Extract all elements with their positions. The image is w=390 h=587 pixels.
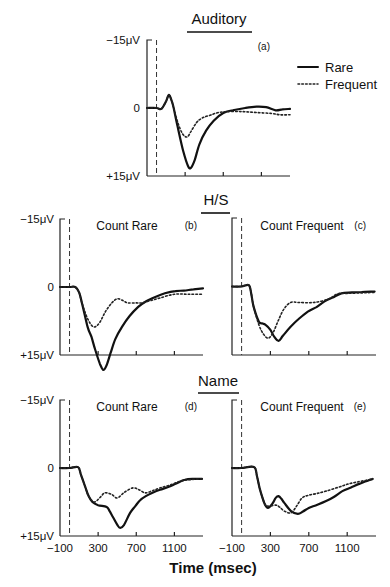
y-tick-label-top: −15μV	[20, 394, 54, 406]
y-tick-label-bottom: +15μV	[20, 530, 54, 542]
title-hs: H/S	[203, 191, 228, 208]
series-frequent-c	[232, 285, 375, 338]
x-tick-label: 300	[89, 542, 108, 554]
series-frequent-e	[232, 467, 373, 513]
x-tick-label: 700	[299, 542, 318, 554]
y-tick-label-bottom: +15μV	[106, 170, 140, 182]
panel-label-a: (a)	[258, 41, 270, 52]
y-tick-label-zero: 0	[48, 462, 54, 474]
x-tick-label: 1100	[162, 542, 187, 554]
panel-c: (c)Count Frequent	[232, 218, 376, 355]
panel-label-b: (b)	[185, 220, 197, 231]
y-tick-label-zero: 0	[48, 281, 54, 293]
y-tick-label-zero: 0	[134, 102, 140, 114]
x-tick-label: −100	[47, 542, 73, 554]
panel-a: −15μV0+15μV(a)	[106, 34, 290, 182]
panel-label-e: (e)	[354, 401, 366, 412]
legend-rare-label: Rare	[325, 60, 353, 75]
panel-b: −15μV0+15μV(b)Count Rare	[20, 213, 203, 370]
panel-label-d: (d)	[185, 401, 197, 412]
x-axis-label: Time (msec)	[169, 559, 256, 576]
title-auditory: Auditory	[191, 10, 247, 27]
series-rare-e	[232, 467, 373, 514]
panel-subtitle-e: Count Frequent	[260, 400, 344, 414]
x-tick-label: 300	[261, 542, 280, 554]
y-tick-label-top: −15μV	[106, 34, 140, 46]
series-rare-b	[60, 287, 203, 370]
y-tick-label-top: −15μV	[20, 213, 54, 225]
panel-subtitle-d: Count Rare	[96, 400, 158, 414]
erp-figure: Auditory H/S Name Rare Frequent −15μV0+1…	[0, 0, 390, 587]
x-tick-label: 700	[127, 542, 146, 554]
panel-subtitle-b: Count Rare	[96, 219, 158, 233]
legend: Rare Frequent	[298, 60, 377, 92]
x-tick-label: 1100	[335, 542, 360, 554]
series-frequent-b	[60, 287, 203, 327]
legend-frequent-label: Frequent	[325, 77, 377, 92]
panel-subtitle-c: Count Frequent	[260, 219, 344, 233]
title-name: Name	[198, 372, 238, 389]
panel-label-c: (c)	[354, 220, 366, 231]
series-rare-a	[147, 95, 290, 169]
y-tick-label-bottom: +15μV	[20, 349, 54, 361]
panel-e: −1003007001100(e)Count Frequent	[219, 400, 376, 554]
panel-d: −15μV0+15μV−1003007001100(d)Count Rare	[20, 394, 203, 554]
x-tick-label: −100	[219, 542, 245, 554]
